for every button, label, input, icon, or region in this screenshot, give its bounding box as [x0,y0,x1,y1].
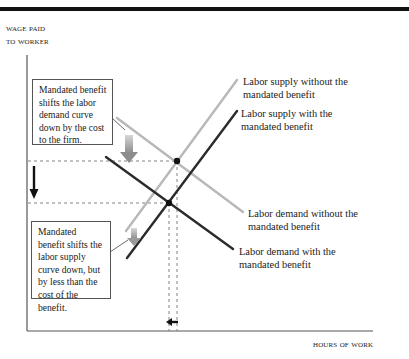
label-line: Labor demand with the [239,245,336,258]
demand-shift-arrow-icon [120,135,138,163]
label-demand-without-benefit: Labor demand without the mandated benefi… [248,207,358,233]
label-supply-without-benefit: Labor supply without the mandated benefi… [243,75,348,101]
supply-note-leader [110,240,128,252]
supply-shift-note: Mandated benefit shifts the labor supply… [31,221,111,299]
label-line: mandated benefit [241,120,332,133]
label-line: mandated benefit [239,258,336,271]
label-demand-with-benefit: Labor demand with the mandated benefit [239,245,336,271]
label-line: Labor supply without the [243,75,348,88]
label-line: Labor supply with the [241,107,332,120]
x-axis-label: Hours of work [313,338,373,351]
demand-shift-note: Mandated benefit shifts the labor demand… [32,79,113,145]
wage-decrease-arrow-icon [30,166,39,199]
original-equilibrium-point [174,158,180,164]
new-equilibrium-point [166,200,172,206]
label-line: Labor demand without the [248,207,358,220]
label-line: mandated benefit [243,88,348,101]
label-supply-with-benefit: Labor supply with the mandated benefit [241,107,332,133]
label-line: mandated benefit [248,220,358,233]
supply-curve-without-benefit [126,80,237,231]
demand-curve-without-benefit [117,118,243,212]
hours-decrease-arrow-icon [166,318,178,326]
